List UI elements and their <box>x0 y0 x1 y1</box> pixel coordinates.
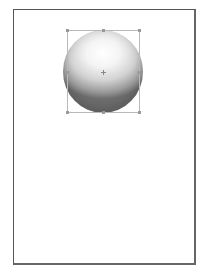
resize-handle-bottom-center[interactable] <box>102 111 105 114</box>
resize-handle-bottom-right[interactable] <box>138 111 141 114</box>
resize-handle-top-left[interactable] <box>66 29 69 32</box>
crosshair-icon[interactable] <box>101 70 106 75</box>
resize-handle-top-center[interactable] <box>102 29 105 32</box>
resize-handle-middle-left[interactable] <box>66 71 69 74</box>
resize-handle-top-right[interactable] <box>138 29 141 32</box>
resize-handle-middle-right[interactable] <box>138 71 141 74</box>
resize-handle-bottom-left[interactable] <box>66 111 69 114</box>
